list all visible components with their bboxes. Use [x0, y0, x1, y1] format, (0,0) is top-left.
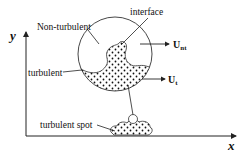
spot-detail-circle [129, 115, 138, 124]
turbulent-spot [97, 115, 152, 136]
y-axis-label: y [8, 28, 16, 43]
non-turbulent-label: Non-turbulent [37, 22, 91, 32]
u-nt-label: Unt [173, 39, 187, 52]
u-t-label: Ut [168, 74, 178, 87]
x-axis-label: x [227, 138, 235, 153]
turbulent-spot-diagram: y x Unt Ut Non-turbulent interface turbu… [0, 0, 247, 154]
turbulent-label: turbulent [28, 68, 63, 78]
turbulent-spot-label: turbulent spot [40, 120, 93, 130]
turbulent-leader [63, 70, 82, 72]
interface-label: interface [130, 7, 163, 17]
spot-connector [128, 85, 133, 115]
